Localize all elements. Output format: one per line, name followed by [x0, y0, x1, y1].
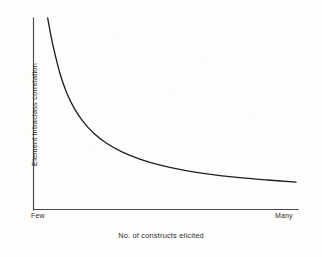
y-axis-title: Element intraclass correlation — [30, 35, 39, 195]
data-curve-line — [48, 18, 296, 182]
x-axis-title: No. of constructs elicited — [0, 231, 322, 240]
figure-container: Few Many No. of constructs elicited Elem… — [0, 0, 322, 257]
x-axis-tick-label-few: Few — [31, 212, 45, 219]
chart-plot-area — [0, 0, 322, 257]
x-axis-tick-label-many: Many — [275, 212, 293, 219]
